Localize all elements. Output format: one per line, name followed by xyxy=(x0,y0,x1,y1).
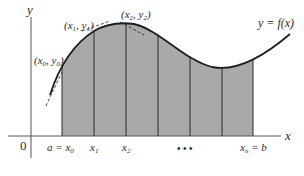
tick-label-x1: x1 xyxy=(89,141,98,155)
y-axis-label: y xyxy=(25,2,33,17)
tick-label-a-x0: a = x0 xyxy=(47,141,74,155)
tick-label-x2: x2 xyxy=(121,141,131,155)
riemann-strip-diagram: y x 0 y = f(x) (x0, y0) (x1, y1) (x2, y2… xyxy=(0,0,304,176)
point-label-x2-y2: (x2, y2) xyxy=(121,8,151,22)
point-label-x0-y0: (x0, y0) xyxy=(34,54,64,68)
curve-label: y = f(x) xyxy=(257,16,294,30)
tick-label-xn-b: xn = b xyxy=(239,141,267,155)
tick-ellipsis: • • • xyxy=(177,143,193,154)
x-axis-label: x xyxy=(284,128,291,143)
origin-label: 0 xyxy=(20,138,27,153)
point-label-x1-y1: (x1, y1) xyxy=(64,19,94,33)
